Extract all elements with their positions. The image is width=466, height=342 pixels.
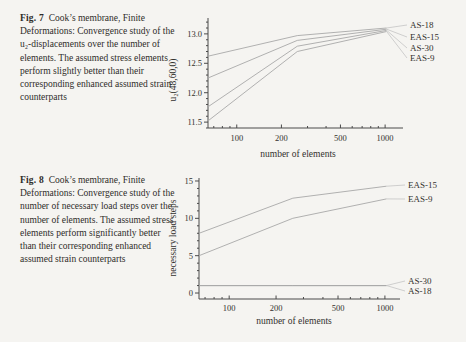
- y-tick-label: 11.5: [187, 117, 202, 127]
- figure-8-caption-label: Fig. 8: [20, 175, 44, 185]
- series-line-eas-15: [199, 186, 387, 233]
- figure-7-chart: 100200500100011.512.012.513.0number of e…: [160, 2, 466, 168]
- legend-leader-as-30: [387, 281, 405, 286]
- paper-page: Fig. 7 Cook’s membrane, Finite Deformati…: [0, 0, 466, 342]
- figure-7-caption-label: Fig. 7: [20, 13, 44, 23]
- figure-7-caption: Fig. 7 Cook’s membrane, Finite Deformati…: [20, 12, 178, 104]
- figure-8-caption: Fig. 8 Cook’s membrane, Finite Deformati…: [20, 174, 178, 266]
- figure-7-caption-text: Cook’s membrane, Finite Deformations: Co…: [20, 13, 174, 102]
- series-line-eas-9: [208, 32, 387, 121]
- legend-label-eas-15: EAS-15: [408, 180, 437, 190]
- legend-leader-as-18: [387, 25, 407, 28]
- y-tick-label: 12.0: [187, 88, 202, 98]
- y-tick-label: 15: [185, 176, 194, 186]
- x-tick-label: 200: [270, 303, 283, 313]
- y-tick-label: 12.5: [187, 58, 202, 68]
- x-axis-label: number of elements: [256, 316, 332, 326]
- legend-label-as-30: AS-30: [410, 43, 434, 53]
- legend-label-eas-9: EAS-9: [408, 194, 433, 204]
- x-tick-label: 1000: [377, 133, 394, 143]
- x-tick-label: 1000: [376, 303, 393, 313]
- x-tick-label: 500: [334, 133, 347, 143]
- y-axis-label: u₂(48,60,0): [168, 59, 179, 102]
- series-line-eas-15: [208, 29, 387, 78]
- legend-label-as-30: AS-30: [408, 276, 432, 286]
- y-axis-label: necessary load steps: [168, 199, 178, 276]
- series-line-as-30: [208, 30, 387, 106]
- legend-label-eas-15: EAS-15: [410, 32, 439, 42]
- legend-label-as-18: AS-18: [408, 286, 432, 296]
- x-tick-label: 100: [230, 133, 243, 143]
- figure-8-chart: 1002005001000051015number of elementsnec…: [160, 172, 466, 340]
- legend-label-as-18: AS-18: [410, 20, 434, 30]
- x-tick-label: 200: [275, 133, 288, 143]
- legend-leader-eas-15: [387, 185, 405, 186]
- legend-leader-as-18: [387, 286, 405, 291]
- y-tick-label: 5: [189, 251, 193, 261]
- x-tick-label: 100: [223, 303, 236, 313]
- figure-8-caption-text: Cook’s membrane, Finite Deformations: Co…: [20, 175, 174, 264]
- y-tick-label: 10: [185, 213, 194, 223]
- x-tick-label: 500: [332, 303, 345, 313]
- y-tick-label: 0: [189, 288, 193, 298]
- x-axis-label: number of elements: [260, 149, 336, 159]
- series-line-eas-9: [199, 199, 387, 256]
- legend-label-eas-9: EAS-9: [410, 53, 435, 63]
- y-tick-label: 13.0: [187, 29, 202, 39]
